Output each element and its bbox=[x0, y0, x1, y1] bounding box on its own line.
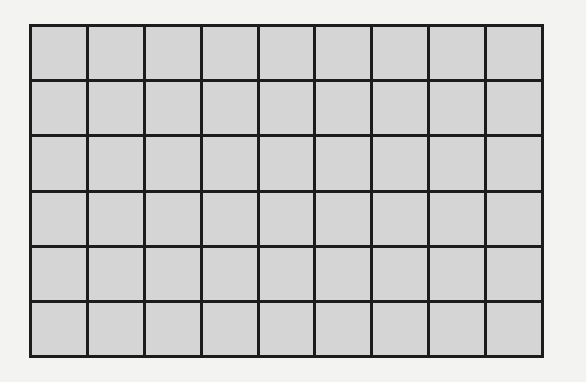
grid-cell bbox=[32, 193, 86, 245]
grid-cell bbox=[430, 248, 484, 300]
grid-cell bbox=[146, 82, 200, 134]
grid-cell bbox=[260, 248, 314, 300]
grid-cell bbox=[89, 82, 143, 134]
grid-cell bbox=[487, 248, 541, 300]
grid-cell bbox=[32, 303, 86, 355]
grid-cell bbox=[260, 137, 314, 189]
grid-cell bbox=[146, 248, 200, 300]
grid-cell bbox=[89, 248, 143, 300]
grid-cell bbox=[203, 82, 257, 134]
grid-cell bbox=[146, 193, 200, 245]
grid-cell bbox=[203, 27, 257, 79]
grid-cell bbox=[316, 303, 370, 355]
grid-cell bbox=[487, 303, 541, 355]
grid-cell bbox=[316, 193, 370, 245]
grid-cell bbox=[89, 27, 143, 79]
grid-cell bbox=[373, 248, 427, 300]
grid-cell bbox=[430, 137, 484, 189]
grid-cell bbox=[430, 82, 484, 134]
grid-cell bbox=[203, 248, 257, 300]
grid-cell bbox=[430, 27, 484, 79]
grid-cell bbox=[32, 248, 86, 300]
grid-cell bbox=[316, 27, 370, 79]
grid-cell bbox=[373, 193, 427, 245]
grid-cell bbox=[373, 27, 427, 79]
grid-cell bbox=[203, 303, 257, 355]
grid-cell bbox=[32, 82, 86, 134]
grid-cell bbox=[260, 82, 314, 134]
grid-cell bbox=[203, 193, 257, 245]
grid-cell bbox=[373, 82, 427, 134]
grid-cell bbox=[430, 193, 484, 245]
grid-cell bbox=[316, 137, 370, 189]
grid-cell bbox=[89, 137, 143, 189]
grid-cell bbox=[487, 193, 541, 245]
grid-cell bbox=[373, 137, 427, 189]
unit-square-grid bbox=[29, 24, 544, 358]
grid-cell bbox=[260, 27, 314, 79]
grid-cell bbox=[316, 82, 370, 134]
grid-cell bbox=[146, 137, 200, 189]
grid-cell bbox=[430, 303, 484, 355]
grid-cell bbox=[316, 248, 370, 300]
grid-cell bbox=[89, 303, 143, 355]
grid-cell bbox=[260, 193, 314, 245]
grid-cell bbox=[487, 27, 541, 79]
grid-cell bbox=[487, 137, 541, 189]
grid-cell bbox=[89, 193, 143, 245]
grid-cell bbox=[146, 303, 200, 355]
grid-cell bbox=[32, 27, 86, 79]
grid-cell bbox=[487, 82, 541, 134]
grid-cell bbox=[146, 27, 200, 79]
grid-cell bbox=[32, 137, 86, 189]
grid-cell bbox=[373, 303, 427, 355]
grid-cell bbox=[203, 137, 257, 189]
grid-cell bbox=[260, 303, 314, 355]
